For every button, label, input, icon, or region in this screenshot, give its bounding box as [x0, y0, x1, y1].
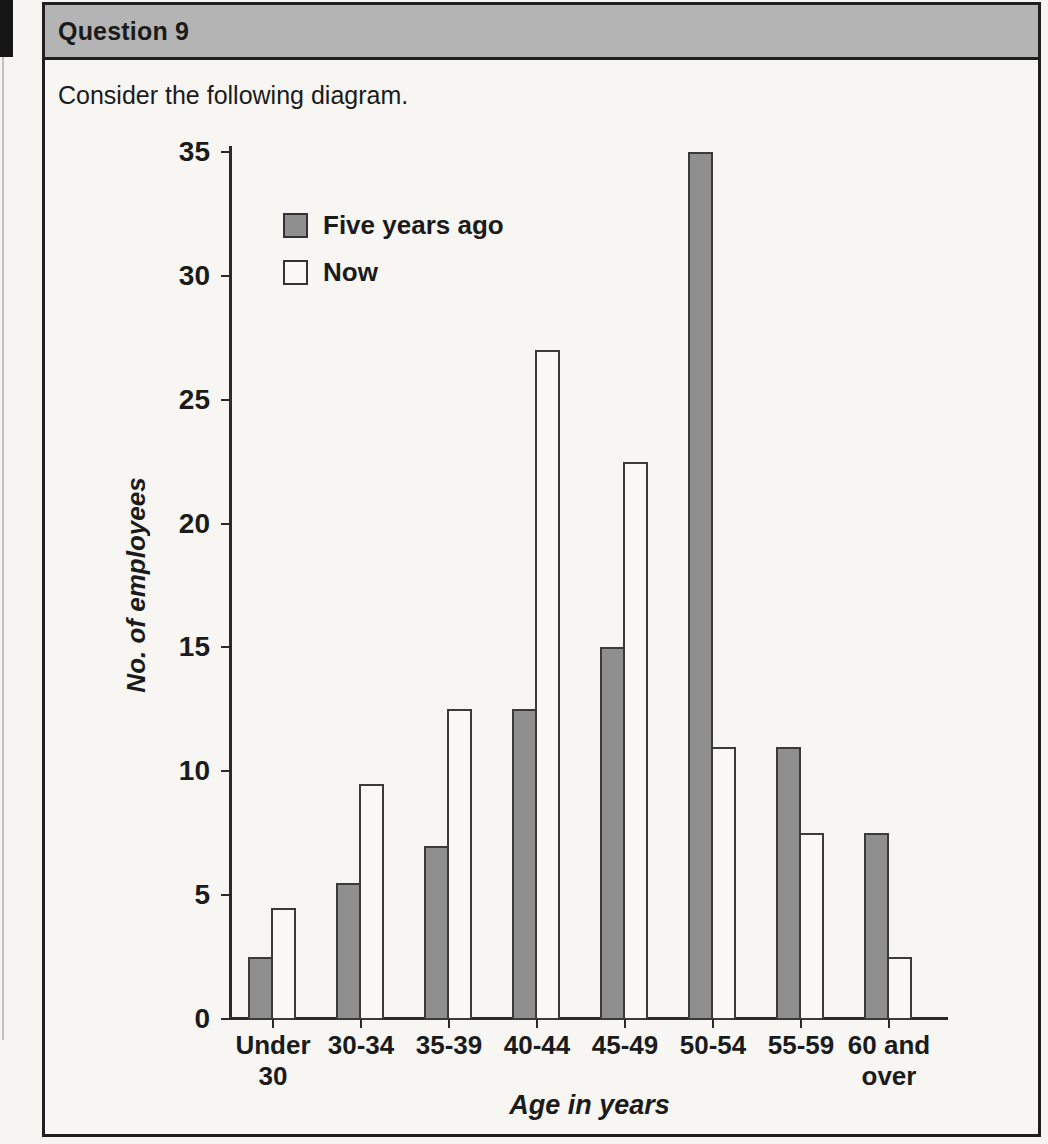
y-tick	[221, 894, 230, 896]
bar-five-years-ago	[424, 846, 449, 1020]
bar-five-years-ago	[600, 647, 625, 1020]
y-tick-label: 5	[130, 879, 210, 911]
bar-five-years-ago	[688, 152, 713, 1020]
legend-label: Now	[323, 257, 378, 288]
x-tick	[800, 1019, 802, 1028]
x-axis-title: Age in years	[231, 1090, 948, 1121]
y-axis-title: No. of employees	[121, 385, 155, 785]
x-tick	[272, 1019, 274, 1028]
bar-chart: No. of employees Age in years 0510152025…	[0, 0, 1048, 1144]
legend-swatch-now	[283, 260, 308, 285]
y-tick	[221, 646, 230, 648]
legend-swatch-five-years-ago	[283, 213, 308, 238]
y-tick-label: 25	[130, 384, 210, 416]
bar-now	[447, 709, 472, 1020]
x-tick	[360, 1019, 362, 1028]
bar-five-years-ago	[248, 957, 273, 1020]
y-tick-label: 10	[130, 755, 210, 787]
y-tick	[221, 275, 230, 277]
y-tick-label: 20	[130, 508, 210, 540]
y-tick	[221, 770, 230, 772]
legend-item: Now	[283, 257, 504, 288]
y-tick-label: 0	[130, 1003, 210, 1035]
bar-now	[711, 747, 736, 1020]
bar-now	[535, 350, 560, 1020]
legend-item: Five years ago	[283, 210, 504, 241]
y-tick-label: 30	[130, 260, 210, 292]
bar-five-years-ago	[512, 709, 537, 1020]
bar-now	[887, 957, 912, 1020]
x-category-label: 60 and over	[829, 1030, 949, 1092]
bar-now	[271, 908, 296, 1020]
y-tick-label: 15	[130, 631, 210, 663]
y-axis-line	[229, 146, 232, 1020]
bar-five-years-ago	[776, 747, 801, 1020]
x-tick	[448, 1019, 450, 1028]
chart-legend: Five years agoNow	[283, 210, 504, 288]
x-tick	[888, 1019, 890, 1028]
x-tick	[712, 1019, 714, 1028]
x-tick	[536, 1019, 538, 1028]
y-tick	[221, 1018, 230, 1020]
bar-now	[799, 833, 824, 1020]
x-tick	[624, 1019, 626, 1028]
y-tick	[221, 399, 230, 401]
bar-now	[623, 462, 648, 1020]
y-tick	[221, 523, 230, 525]
y-tick	[221, 151, 230, 153]
bar-now	[359, 784, 384, 1020]
bar-five-years-ago	[864, 833, 889, 1020]
y-tick-label: 35	[130, 136, 210, 168]
bar-five-years-ago	[336, 883, 361, 1020]
scanned-textbook-page: Question 9 Consider the following diagra…	[0, 0, 1048, 1144]
legend-label: Five years ago	[323, 210, 504, 241]
